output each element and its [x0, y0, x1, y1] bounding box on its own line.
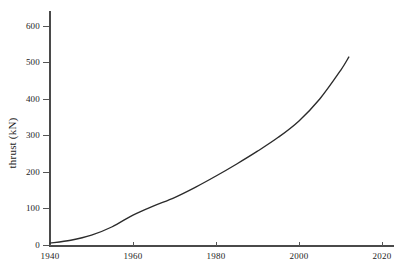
plot-area	[0, 0, 403, 278]
chart-figure: 600 500 400 300 200 100 0 1940 1960 1980…	[0, 0, 403, 278]
thrust-curve-line	[50, 57, 349, 243]
